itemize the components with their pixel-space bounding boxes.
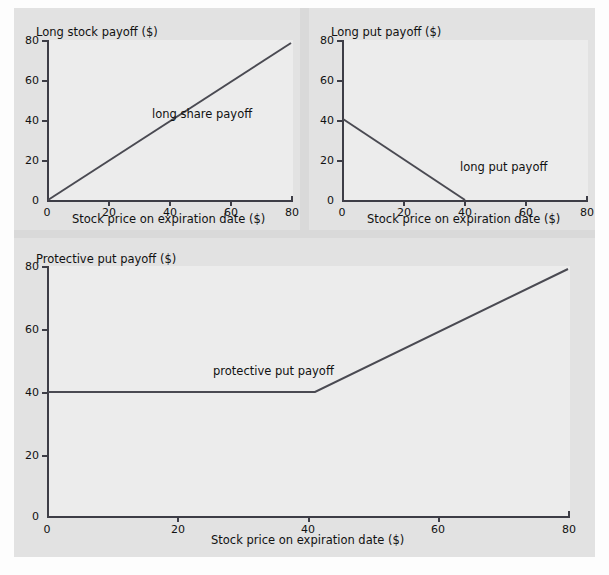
series-annotation-long-share-payoff: long share payoff: [152, 107, 252, 121]
series-long-put-payoff: [343, 119, 465, 200]
y-ticklabel-80: 80: [14, 260, 39, 273]
y-ticklabel-40: 40: [309, 114, 334, 127]
y-ticklabel-20: 20: [14, 154, 39, 167]
y-ticklabel-60: 60: [14, 323, 39, 336]
chart-long-stock-payoff: Long stock payoff ($) 80 60 40 20 0: [14, 8, 300, 230]
x-ticklabel-20: 20: [166, 523, 190, 536]
y-ticklabel-20: 20: [309, 154, 334, 167]
x-axis-title-long-put: Stock price on expiration date ($): [367, 212, 560, 226]
chart-title-long-stock: Long stock payoff ($): [36, 25, 158, 39]
series-long-share-payoff: [48, 43, 291, 200]
y-ticklabel-40: 40: [14, 114, 39, 127]
series-annotation-long-put-payoff: long put payoff: [460, 160, 547, 174]
y-ticklabel-80: 80: [309, 34, 334, 47]
chart-title-protective-put: Protective put payoff ($): [36, 252, 176, 266]
x-ticklabel-80: 80: [280, 206, 304, 219]
x-ticklabel-60: 60: [426, 523, 450, 536]
x-axis-title-long-stock: Stock price on expiration date ($): [72, 212, 265, 226]
chart-protective-put-payoff: Protective put payoff ($) 80 60 40 20 0: [14, 238, 595, 557]
y-ticklabel-20: 20: [14, 449, 39, 462]
figure-root: Long stock payoff ($) 80 60 40 20 0: [0, 0, 609, 575]
series-layer-long-put: [342, 40, 588, 202]
x-ticklabel-0: 0: [35, 206, 59, 219]
figure-panel: Long stock payoff ($) 80 60 40 20 0: [14, 8, 595, 557]
y-ticklabel-40: 40: [14, 386, 39, 399]
x-ticklabel-80: 80: [557, 523, 581, 536]
x-ticklabel-0: 0: [330, 206, 354, 219]
x-ticklabel-0: 0: [35, 523, 59, 536]
y-ticklabel-60: 60: [14, 74, 39, 87]
y-ticklabel-60: 60: [309, 74, 334, 87]
series-layer-long-stock: [47, 40, 293, 202]
plot-area-long-put: 80 60 40 20 0 0 20 40 60 80 long put pay…: [342, 40, 588, 202]
x-axis-title-protective-put: Stock price on expiration date ($): [211, 533, 404, 547]
y-ticklabel-0: 0: [14, 510, 39, 523]
series-annotation-protective-put-payoff: protective put payoff: [213, 364, 334, 378]
y-ticklabel-80: 80: [14, 34, 39, 47]
plot-area-protective-put: 80 60 40 20 0 0 20 40 60 80 protective p…: [47, 266, 570, 518]
plot-area-long-stock: 80 60 40 20 0 0 20 40 60 80 long: [47, 40, 293, 202]
x-ticklabel-80: 80: [575, 206, 599, 219]
series-layer-protective-put: [47, 266, 570, 518]
chart-long-put-payoff: Long put payoff ($) 80 60 40 20 0 0: [309, 8, 595, 230]
chart-title-long-put: Long put payoff ($): [331, 25, 441, 39]
